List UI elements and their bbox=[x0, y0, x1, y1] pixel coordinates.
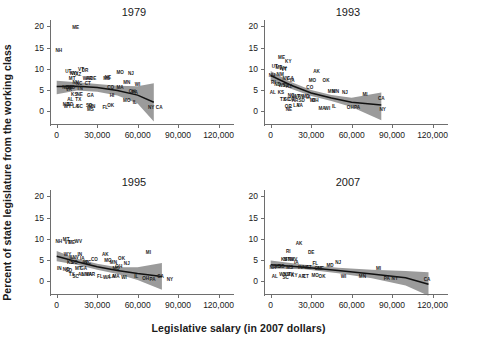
y-tick-label: 10 bbox=[240, 65, 258, 73]
data-point-label: PA bbox=[354, 106, 360, 111]
x-tick-label: 60,000 bbox=[117, 301, 159, 309]
x-tick-mark bbox=[57, 125, 58, 128]
data-point-label: CO bbox=[107, 85, 114, 90]
panel-1993: 1993MEKYUTMTWVVTAKNHNMNVGAIAMOOKRINDWYSD… bbox=[244, 6, 452, 154]
data-point-label: CO bbox=[306, 85, 313, 90]
x-tick-label: 90,000 bbox=[157, 301, 199, 309]
y-tick-mark bbox=[47, 281, 50, 282]
data-point-label: PA bbox=[384, 276, 390, 281]
data-point-label: WY bbox=[64, 105, 71, 110]
data-point-label: WI bbox=[121, 276, 127, 281]
x-tick-label: 90,000 bbox=[157, 131, 199, 139]
data-point-label: CA bbox=[378, 96, 385, 101]
data-point-label: GA bbox=[80, 267, 87, 272]
data-point-label: MI bbox=[376, 266, 381, 271]
panel-2007: 2007AKRIDEKSMTNVWVNJIAFLMDMINHNDSDMSINNC… bbox=[244, 176, 452, 324]
x-tick-label: 0 bbox=[36, 301, 78, 309]
x-tick-mark bbox=[178, 295, 179, 298]
data-point-label: FL bbox=[97, 275, 103, 280]
y-tick-label: 15 bbox=[26, 44, 44, 52]
y-tick-label: 5 bbox=[26, 256, 44, 264]
x-tick-label: 30,000 bbox=[290, 131, 332, 139]
x-tick-label: 0 bbox=[250, 301, 292, 309]
data-point-label: NY bbox=[167, 278, 173, 283]
y-tick-label: 10 bbox=[26, 65, 44, 73]
data-point-label: MN bbox=[332, 89, 339, 94]
data-point-label: MO bbox=[309, 78, 316, 83]
data-point-label: CA bbox=[157, 275, 164, 280]
x-tick-mark bbox=[138, 125, 139, 128]
x-tick-label: 120,000 bbox=[198, 131, 240, 139]
x-tick-label: 0 bbox=[36, 131, 78, 139]
y-axis-line bbox=[50, 190, 51, 296]
y-tick-label: 20 bbox=[26, 192, 44, 200]
data-point-label: NH bbox=[55, 240, 62, 245]
data-point-label: AR bbox=[88, 273, 95, 278]
y-tick-mark bbox=[261, 281, 264, 282]
y-tick-mark bbox=[47, 239, 50, 240]
x-tick-mark bbox=[311, 295, 312, 298]
y-tick-label: 0 bbox=[240, 277, 258, 285]
x-tick-mark bbox=[433, 295, 434, 298]
data-point-label: CA bbox=[424, 278, 431, 283]
data-point-label: IA bbox=[290, 78, 295, 83]
data-point-label: MN bbox=[359, 275, 366, 280]
data-point-label: WI bbox=[341, 275, 347, 280]
x-tick-mark bbox=[271, 125, 272, 128]
y-tick-mark bbox=[47, 90, 50, 91]
data-point-label: TN bbox=[77, 86, 83, 91]
y-tick-label: 15 bbox=[240, 44, 258, 52]
data-point-label: ME bbox=[278, 56, 285, 61]
data-point-label: ME bbox=[72, 26, 79, 31]
x-tick-label: 0 bbox=[250, 131, 292, 139]
y-axis-line bbox=[264, 190, 265, 296]
x-tick-label: 60,000 bbox=[331, 301, 373, 309]
y-axis-line bbox=[50, 20, 51, 126]
data-point-label: AZ bbox=[305, 266, 311, 271]
data-point-label: AZ bbox=[286, 85, 292, 90]
y-tick-mark bbox=[261, 48, 264, 49]
data-point-label: TX bbox=[75, 98, 81, 103]
data-point-label: NY bbox=[148, 106, 154, 111]
data-point-label: AL bbox=[272, 274, 278, 279]
data-point-label: DE bbox=[90, 76, 96, 81]
data-point-label: HI bbox=[110, 93, 115, 98]
y-tick-mark bbox=[47, 48, 50, 49]
x-axis-line bbox=[264, 124, 448, 125]
y-tick-label: 5 bbox=[240, 86, 258, 94]
y-axis-label: Percent of state legislature from the wo… bbox=[0, 0, 15, 345]
data-point-label: NJ bbox=[335, 260, 341, 265]
data-point-label: MO bbox=[123, 98, 130, 103]
data-point-label: PA bbox=[132, 91, 138, 96]
x-tick-mark bbox=[97, 125, 98, 128]
data-point-label: OH bbox=[347, 106, 354, 111]
y-tick-mark bbox=[261, 239, 264, 240]
data-point-label: NE bbox=[105, 76, 111, 81]
x-axis-line bbox=[50, 294, 234, 295]
data-point-label: VA bbox=[297, 103, 303, 108]
data-point-label: DR bbox=[82, 69, 89, 74]
x-tick-mark bbox=[311, 125, 312, 128]
y-tick-mark bbox=[47, 26, 50, 27]
data-point-label: AK bbox=[102, 252, 109, 257]
x-tick-mark bbox=[138, 295, 139, 298]
data-point-label: MO bbox=[116, 71, 123, 76]
data-point-label: KY bbox=[285, 60, 291, 65]
y-tick-label: 15 bbox=[26, 214, 44, 222]
y-tick-mark bbox=[47, 111, 50, 112]
data-point-label: NJ bbox=[124, 262, 130, 267]
x-tick-label: 60,000 bbox=[117, 131, 159, 139]
data-point-label: AL bbox=[270, 90, 276, 95]
data-point-label: KS bbox=[278, 90, 284, 95]
data-point-label: IN bbox=[57, 266, 62, 271]
y-tick-mark bbox=[261, 260, 264, 261]
data-point-label: NY bbox=[379, 108, 385, 113]
x-tick-mark bbox=[392, 295, 393, 298]
x-tick-label: 60,000 bbox=[331, 131, 373, 139]
x-tick-mark bbox=[219, 125, 220, 128]
data-point-label: AK bbox=[296, 242, 303, 247]
data-point-label: NH bbox=[269, 73, 276, 78]
figure-container: Percent of state legislature from the wo… bbox=[0, 0, 477, 345]
y-tick-mark bbox=[261, 196, 264, 197]
data-point-label: MI bbox=[363, 92, 368, 97]
